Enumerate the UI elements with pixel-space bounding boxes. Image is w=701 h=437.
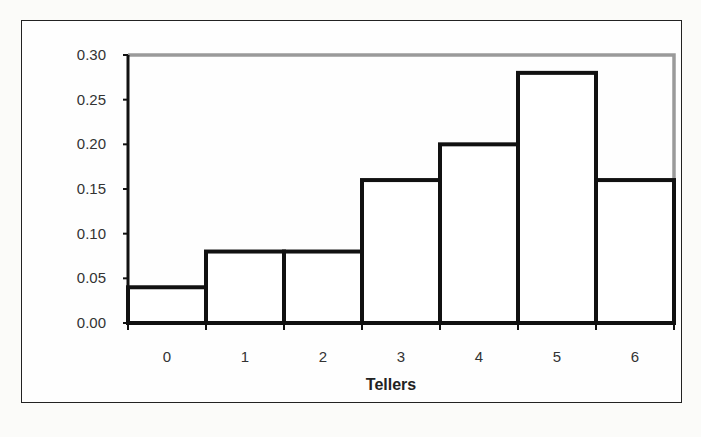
bar-2 — [284, 252, 362, 323]
y-tick-label: 0.30 — [77, 46, 106, 63]
y-tick-label: 0.15 — [77, 180, 106, 197]
x-tick-label: 1 — [241, 348, 249, 365]
x-tick-label: 2 — [319, 348, 327, 365]
x-axis-ticks: 0123456 — [128, 323, 674, 365]
y-axis-ticks: 0.000.050.100.150.200.250.30 — [77, 46, 128, 331]
y-tick-label: 0.05 — [77, 269, 106, 286]
bar-4 — [440, 144, 518, 323]
y-tick-label: 0.25 — [77, 91, 106, 108]
bar-3 — [362, 180, 440, 323]
x-tick-label: 4 — [475, 348, 483, 365]
bar-5 — [518, 73, 596, 323]
bars-group — [128, 73, 674, 323]
bar-1 — [206, 252, 284, 323]
y-tick-label: 0.00 — [77, 314, 106, 331]
x-tick-label: 5 — [553, 348, 561, 365]
bar-0 — [128, 287, 206, 323]
y-tick-label: 0.10 — [77, 225, 106, 242]
histogram-chart: 0.000.050.100.150.200.250.30 0123456 Tel… — [0, 0, 701, 437]
x-tick-label: 0 — [163, 348, 171, 365]
x-tick-label: 3 — [397, 348, 405, 365]
bar-6 — [596, 180, 674, 323]
x-axis-title: Tellers — [366, 376, 417, 393]
x-tick-label: 6 — [631, 348, 639, 365]
y-tick-label: 0.20 — [77, 135, 106, 152]
